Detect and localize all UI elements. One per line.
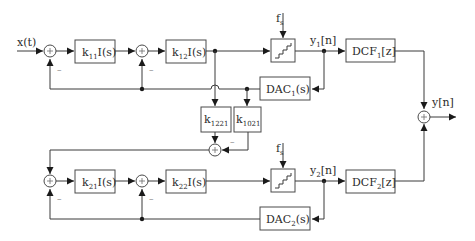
summing-junction-3 (44, 175, 56, 187)
block-dac1: DAC1(s) (260, 77, 310, 100)
svg-text:–: – (57, 194, 62, 204)
block-k12: k12I(s) (166, 40, 206, 63)
input-label: x(t) (17, 36, 36, 49)
svg-text:k21I(s): k21I(s) (82, 176, 116, 191)
stage-1: x(t) – k11I(s) – k12I(s) (17, 12, 424, 109)
block-k11: k11I(s) (75, 40, 116, 63)
y2-label: y2[n] (309, 164, 336, 179)
block-k21: k21I(s) (75, 170, 116, 193)
svg-text:k22I(s): k22I(s) (172, 176, 206, 191)
block-k22: k22I(s) (166, 170, 206, 193)
minus-sign: – (57, 65, 62, 75)
summing-junction-output (418, 111, 430, 123)
summing-junction-4 (136, 175, 148, 187)
summing-junction-2 (136, 45, 148, 57)
summing-junction-1 (44, 45, 56, 57)
block-dcf1: DCF1[z] (346, 39, 396, 62)
y1-label: y1[n] (309, 34, 336, 49)
svg-text:DCF2[z]: DCF2[z] (352, 176, 396, 191)
svg-text:DAC1(s): DAC1(s) (266, 83, 310, 98)
svg-text:k11I(s): k11I(s) (82, 46, 116, 61)
quantizer-1 (271, 39, 295, 62)
block-k1021: k1021 (234, 107, 261, 132)
coupling-section: k1221 k1021 – (50, 51, 261, 174)
svg-text:–: – (230, 137, 235, 147)
output-label: y[n] (431, 96, 454, 109)
block-diagram: x(t) – k11I(s) – k12I(s) (0, 0, 475, 241)
block-dcf2: DCF2[z] (346, 170, 396, 193)
svg-text:DAC2(s): DAC2(s) (266, 213, 310, 228)
block-dac2: DAC2(s) (260, 207, 310, 230)
svg-text:DCF1[z]: DCF1[z] (352, 45, 396, 60)
block-k1221: k1221 (201, 107, 231, 132)
svg-text:–: – (149, 194, 154, 204)
svg-text:–: – (149, 65, 154, 75)
quantizer-2 (271, 169, 295, 192)
svg-text:k12I(s): k12I(s) (172, 46, 206, 61)
summing-junction-coupling (209, 144, 221, 156)
